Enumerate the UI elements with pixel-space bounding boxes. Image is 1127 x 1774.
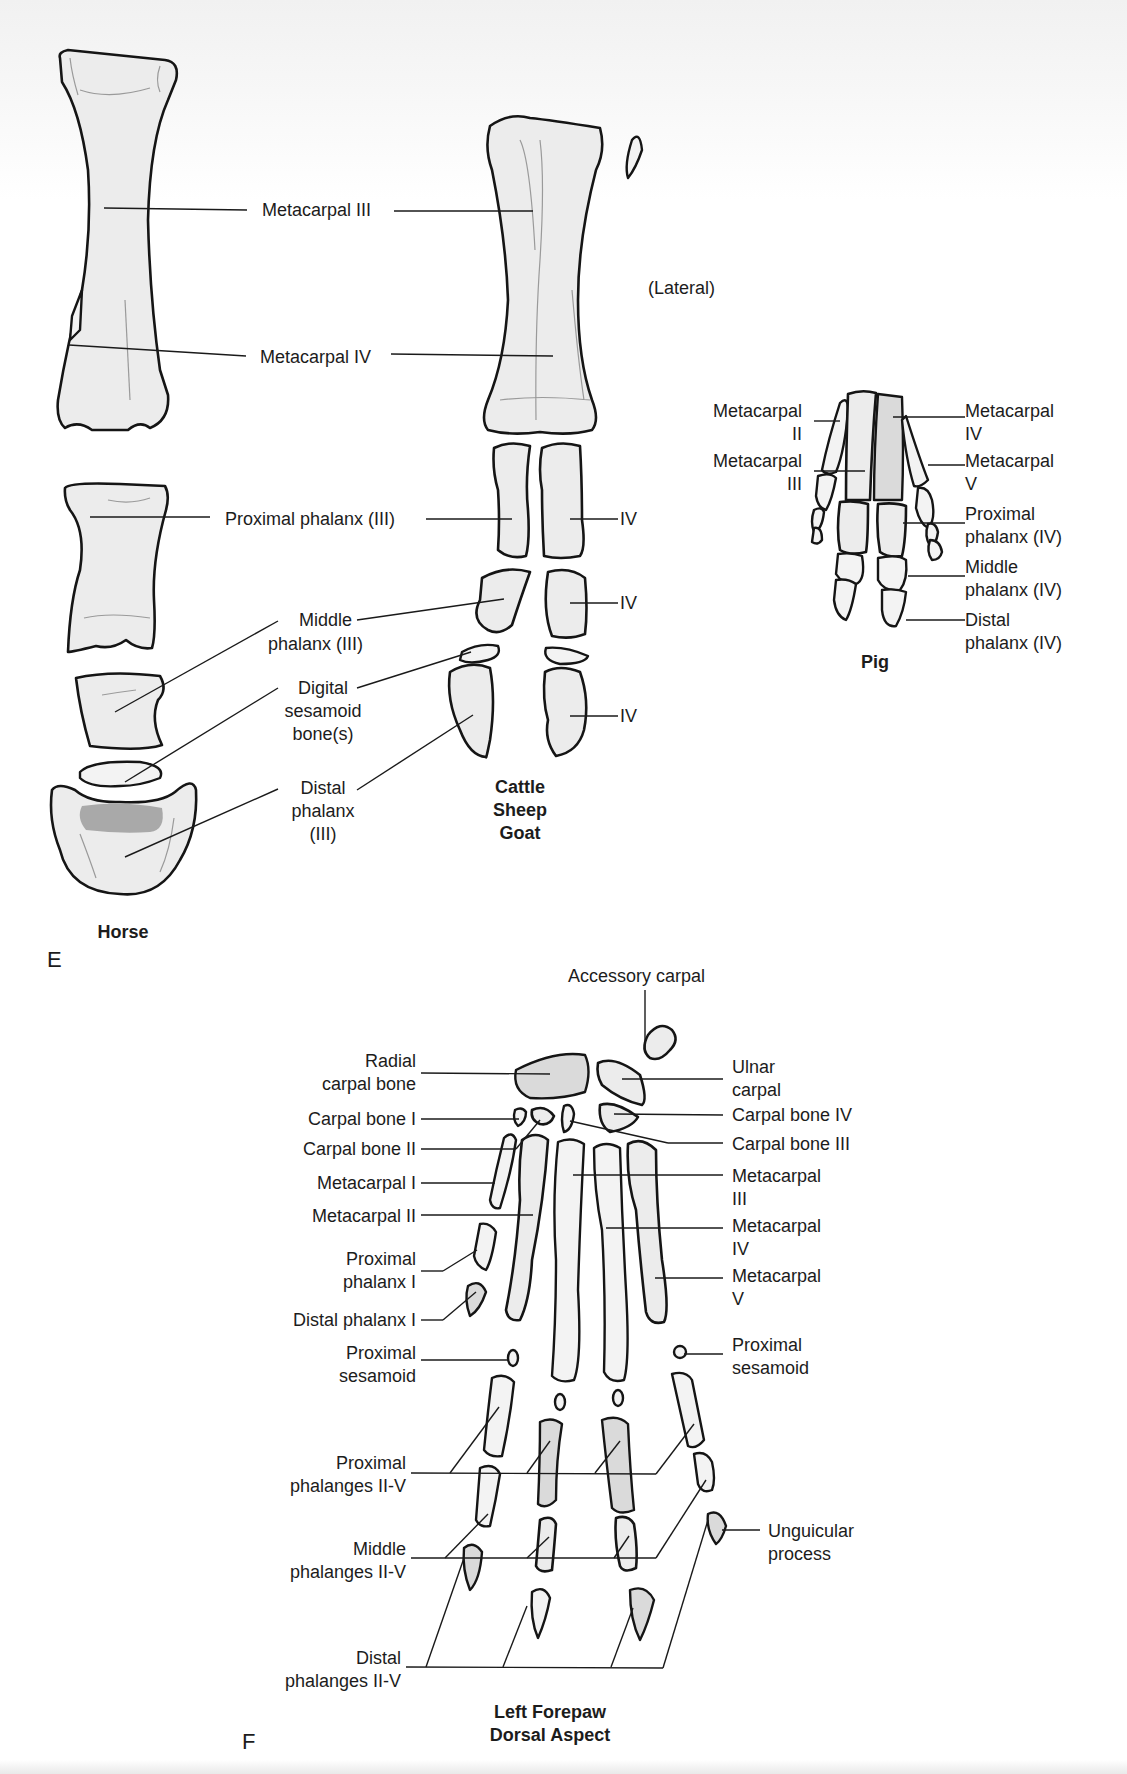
horse-proximal-phalanx xyxy=(65,484,168,653)
ruminant-digital-sesamoids xyxy=(460,645,588,664)
label-proximal-phalanx-i-l2: phalanx I xyxy=(270,1271,416,1293)
horse-middle-phalanx xyxy=(76,673,164,748)
label-pig-mc3-l1: Metacarpal xyxy=(690,450,802,472)
label-pig-dist-l1: Distal xyxy=(965,609,1010,631)
label-metacarpal-v-l1: Metacarpal xyxy=(732,1265,821,1287)
label-unguicular-l2: process xyxy=(768,1543,831,1565)
label-middle-phalanges-l1: Middle xyxy=(250,1538,406,1560)
label-proximal-sesamoid-left-l1: Proximal xyxy=(270,1342,416,1364)
label-carpal-bone-ii: Carpal bone II xyxy=(240,1138,416,1160)
caption-pig: Pig xyxy=(845,651,905,673)
horse-digital-sesamoid xyxy=(80,762,161,787)
pig-forefoot xyxy=(812,391,942,626)
panel-letter-e: E xyxy=(47,948,62,972)
label-distal-phalanx-l3: (III) xyxy=(278,823,368,845)
label-metacarpal-ii: Metacarpal II xyxy=(240,1205,416,1227)
label-digital-sesamoid-l1: Digital xyxy=(268,677,378,699)
label-metacarpal-i: Metacarpal I xyxy=(240,1172,416,1194)
forepaw-sesamoids xyxy=(508,1346,686,1410)
label-carpal-bone-i: Carpal bone I xyxy=(240,1108,416,1130)
forepaw-proximal-phalanges xyxy=(484,1373,704,1513)
label-horse-proximal-phalanx: Proximal phalanx (III) xyxy=(225,508,395,530)
label-proximal-phalanges-l1: Proximal xyxy=(250,1452,406,1474)
label-pig-mc2-l1: Metacarpal xyxy=(690,400,802,422)
label-pig-mc4-l1: Metacarpal xyxy=(965,400,1054,422)
caption-goat: Goat xyxy=(480,822,560,844)
label-carpal-bone-iii: Carpal bone III xyxy=(732,1133,850,1155)
label-ruminant-distal-iv: IV xyxy=(620,705,637,727)
label-metacarpal-iii-l1: Metacarpal xyxy=(732,1165,821,1187)
label-horse-metacarpal-iii: Metacarpal III xyxy=(262,199,371,221)
label-digital-sesamoid-l3: bone(s) xyxy=(268,723,378,745)
label-pig-mid-l2: phalanx (IV) xyxy=(965,579,1062,601)
label-proximal-phalanx-i-l1: Proximal xyxy=(270,1248,416,1270)
caption-horse: Horse xyxy=(83,921,163,943)
label-ulnar-l2: carpal xyxy=(732,1079,781,1101)
ruminant-lateral-small-bone xyxy=(627,137,642,178)
label-pig-mc2-l2: II xyxy=(690,423,802,445)
label-pig-prox-l1: Proximal xyxy=(965,503,1035,525)
label-pig-mc3-l2: III xyxy=(690,473,802,495)
label-metacarpal-iv-l1: Metacarpal xyxy=(732,1215,821,1237)
caption-cattle: Cattle xyxy=(480,776,560,798)
label-lateral-view: (Lateral) xyxy=(648,277,715,299)
label-ruminant-proximal-iv: IV xyxy=(620,508,637,530)
label-radial-l1: Radial xyxy=(270,1050,416,1072)
label-horse-metacarpal-iv: Metacarpal IV xyxy=(260,346,371,368)
label-unguicular-l1: Unguicular xyxy=(768,1520,854,1542)
label-distal-phalanges-l2: phalanges II-V xyxy=(245,1670,401,1692)
label-metacarpal-v-l2: V xyxy=(732,1288,744,1310)
label-pig-mc4-l2: IV xyxy=(965,423,982,445)
label-accessory-carpal: Accessory carpal xyxy=(568,965,705,987)
caption-sheep: Sheep xyxy=(480,799,560,821)
label-pig-mid-l1: Middle xyxy=(965,556,1018,578)
label-pig-prox-l2: phalanx (IV) xyxy=(965,526,1062,548)
label-pig-dist-l2: phalanx (IV) xyxy=(965,632,1062,654)
label-distal-phalanx-l2: phalanx xyxy=(278,800,368,822)
ruminant-middle-phalanges xyxy=(476,570,586,638)
label-pig-mc5-l2: V xyxy=(965,473,977,495)
ruminant-metacarpal xyxy=(484,116,602,433)
label-proximal-sesamoid-left-l2: sesamoid xyxy=(270,1365,416,1387)
label-metacarpal-iii-l2: III xyxy=(732,1188,747,1210)
forepaw-digit-i xyxy=(466,1224,496,1316)
label-proximal-phalanges-l2: phalanges II-V xyxy=(250,1475,406,1497)
label-metacarpal-iv-l2: IV xyxy=(732,1238,749,1260)
caption-dorsal-aspect: Dorsal Aspect xyxy=(470,1724,630,1746)
label-digital-sesamoid-l2: sesamoid xyxy=(268,700,378,722)
label-middle-phalanges-l2: phalanges II-V xyxy=(250,1561,406,1583)
horse-distal-phalanx xyxy=(51,783,196,894)
forepaw-middle-phalanges xyxy=(476,1453,714,1571)
label-pig-mc5-l1: Metacarpal xyxy=(965,450,1054,472)
anatomy-illustration xyxy=(0,0,1127,1774)
caption-left-forepaw: Left Forepaw xyxy=(470,1701,630,1723)
label-ruminant-middle-iv: IV xyxy=(620,592,637,614)
label-distal-phalanges-l1: Distal xyxy=(245,1647,401,1669)
label-radial-l2: carpal bone xyxy=(270,1073,416,1095)
label-proximal-sesamoid-right-l2: sesamoid xyxy=(732,1357,809,1379)
label-distal-phalanx-i: Distal phalanx I xyxy=(230,1309,416,1331)
ruminant-distal-phalanges xyxy=(449,665,586,758)
label-ulnar-l1: Ulnar xyxy=(732,1056,775,1078)
panel-letter-f: F xyxy=(242,1730,255,1754)
label-proximal-sesamoid-right-l1: Proximal xyxy=(732,1334,802,1356)
horse-metacarpal-iii xyxy=(58,50,177,430)
forepaw-metacarpals xyxy=(490,1134,667,1381)
label-carpal-bone-iv: Carpal bone IV xyxy=(732,1104,852,1126)
label-middle-phalanx-l2: phalanx (III) xyxy=(268,633,363,655)
forepaw-distal-phalanges xyxy=(464,1513,726,1641)
label-middle-phalanx-l1: Middle xyxy=(272,609,352,631)
ruminant-proximal-phalanges xyxy=(494,443,584,558)
label-distal-phalanx-l1: Distal xyxy=(278,777,368,799)
